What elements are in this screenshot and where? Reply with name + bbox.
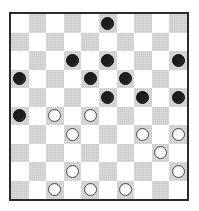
board-square-r7c9[interactable] (152, 125, 170, 144)
board-square-r1c2[interactable] (29, 14, 47, 33)
board-square-r7c6[interactable] (99, 125, 117, 144)
black-piece-r3c6[interactable] (101, 54, 114, 67)
board-square-r1c1[interactable] (11, 14, 29, 33)
board-square-r9c10[interactable] (169, 162, 187, 181)
board-square-r10c9[interactable] (152, 181, 170, 200)
board-square-r4c6[interactable] (99, 70, 117, 89)
black-piece-r4c1[interactable] (13, 72, 26, 85)
board-square-r10c1[interactable] (11, 181, 29, 200)
board-square-r7c3[interactable] (46, 125, 64, 144)
white-piece-r6c5[interactable] (84, 109, 97, 122)
board-square-r4c1[interactable] (11, 70, 29, 89)
board-square-r9c9[interactable] (152, 162, 170, 181)
board-square-r2c7[interactable] (117, 33, 135, 52)
board-square-r6c4[interactable] (64, 107, 82, 126)
board-square-r7c7[interactable] (117, 125, 135, 144)
board-square-r2c4[interactable] (64, 33, 82, 52)
board-grid[interactable] (11, 14, 187, 199)
board-square-r7c10[interactable] (169, 125, 187, 144)
black-piece-r5c8[interactable] (136, 91, 149, 104)
board-square-r3c4[interactable] (64, 51, 82, 70)
board-square-r5c5[interactable] (81, 88, 99, 107)
white-piece-r7c10[interactable] (172, 128, 185, 141)
board-square-r5c10[interactable] (169, 88, 187, 107)
board-square-r8c2[interactable] (29, 144, 47, 163)
board-square-r3c10[interactable] (169, 51, 187, 70)
white-piece-r7c8[interactable] (136, 128, 149, 141)
black-piece-r5c6[interactable] (101, 91, 114, 104)
board-square-r10c10[interactable] (169, 181, 187, 200)
board-square-r6c10[interactable] (169, 107, 187, 126)
board-square-r10c2[interactable] (29, 181, 47, 200)
white-piece-r7c4[interactable] (66, 128, 79, 141)
board-square-r8c9[interactable] (152, 144, 170, 163)
white-piece-r10c3[interactable] (48, 183, 61, 196)
board-square-r3c9[interactable] (152, 51, 170, 70)
board-square-r8c1[interactable] (11, 144, 29, 163)
board-square-r5c6[interactable] (99, 88, 117, 107)
board-square-r1c4[interactable] (64, 14, 82, 33)
board-square-r8c4[interactable] (64, 144, 82, 163)
board-square-r7c8[interactable] (134, 125, 152, 144)
board-square-r4c2[interactable] (29, 70, 47, 89)
board-square-r9c4[interactable] (64, 162, 82, 181)
board-square-r3c1[interactable] (11, 51, 29, 70)
board-square-r7c1[interactable] (11, 125, 29, 144)
board-square-r5c3[interactable] (46, 88, 64, 107)
board-square-r2c9[interactable] (152, 33, 170, 52)
board-square-r10c7[interactable] (117, 181, 135, 200)
board-square-r8c5[interactable] (81, 144, 99, 163)
board-square-r8c3[interactable] (46, 144, 64, 163)
board-square-r3c8[interactable] (134, 51, 152, 70)
board-square-r1c7[interactable] (117, 14, 135, 33)
board-square-r6c8[interactable] (134, 107, 152, 126)
board-square-r6c3[interactable] (46, 107, 64, 126)
board-square-r2c8[interactable] (134, 33, 152, 52)
board-square-r7c5[interactable] (81, 125, 99, 144)
white-piece-r10c5[interactable] (84, 183, 97, 196)
board-square-r2c6[interactable] (99, 33, 117, 52)
board-square-r4c3[interactable] (46, 70, 64, 89)
board-square-r3c3[interactable] (46, 51, 64, 70)
board-square-r5c1[interactable] (11, 88, 29, 107)
board-square-r2c3[interactable] (46, 33, 64, 52)
black-piece-r3c10[interactable] (172, 54, 185, 67)
board-square-r2c10[interactable] (169, 33, 187, 52)
board-square-r5c4[interactable] (64, 88, 82, 107)
board-square-r4c5[interactable] (81, 70, 99, 89)
board-square-r10c3[interactable] (46, 181, 64, 200)
board-square-r2c1[interactable] (11, 33, 29, 52)
board-square-r8c7[interactable] (117, 144, 135, 163)
board-square-r6c7[interactable] (117, 107, 135, 126)
black-piece-r4c7[interactable] (119, 72, 132, 85)
board-square-r10c4[interactable] (64, 181, 82, 200)
board-square-r6c9[interactable] (152, 107, 170, 126)
black-piece-r5c10[interactable] (172, 91, 185, 104)
board-square-r6c5[interactable] (81, 107, 99, 126)
board-square-r8c8[interactable] (134, 144, 152, 163)
board-square-r1c9[interactable] (152, 14, 170, 33)
black-piece-r4c5[interactable] (84, 72, 97, 85)
board-square-r7c4[interactable] (64, 125, 82, 144)
board-square-r9c2[interactable] (29, 162, 47, 181)
board-square-r6c1[interactable] (11, 107, 29, 126)
board-square-r6c2[interactable] (29, 107, 47, 126)
board-square-r5c2[interactable] (29, 88, 47, 107)
board-square-r1c3[interactable] (46, 14, 64, 33)
board-square-r4c7[interactable] (117, 70, 135, 89)
board-square-r4c9[interactable] (152, 70, 170, 89)
board-square-r9c5[interactable] (81, 162, 99, 181)
black-piece-r3c4[interactable] (66, 54, 79, 67)
board-square-r2c5[interactable] (81, 33, 99, 52)
board-square-r9c1[interactable] (11, 162, 29, 181)
board-square-r3c5[interactable] (81, 51, 99, 70)
black-piece-r1c6[interactable] (101, 17, 114, 30)
board-square-r5c9[interactable] (152, 88, 170, 107)
board-square-r10c8[interactable] (134, 181, 152, 200)
board-square-r1c10[interactable] (169, 14, 187, 33)
white-piece-r6c3[interactable] (48, 109, 61, 122)
board-square-r5c7[interactable] (117, 88, 135, 107)
white-piece-r10c7[interactable] (119, 183, 132, 196)
board-square-r9c8[interactable] (134, 162, 152, 181)
board-square-r6c6[interactable] (99, 107, 117, 126)
